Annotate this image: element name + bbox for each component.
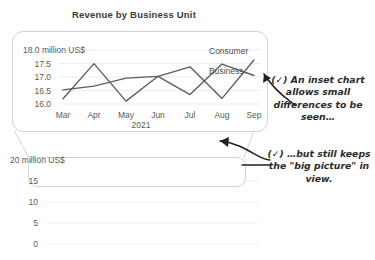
overview-ytick-3: 5 <box>6 218 38 228</box>
series-label-business: Business <box>209 66 244 76</box>
annotation-note-overview: (✓) …but still keeps the "big picture" i… <box>264 148 374 185</box>
inset-ytick-2: 17.0 <box>19 72 51 82</box>
inset-xtick-may: May <box>112 110 140 120</box>
overview-ytick-1: 15 <box>6 176 38 186</box>
series-label-consumer: Consumer <box>209 46 248 56</box>
overview-ytick-4: 0 <box>6 239 38 249</box>
inset-ytick-4: 16.0 <box>19 99 51 109</box>
page-title: Revenue by Business Unit <box>0 9 268 20</box>
inset-ytick-0: 18.0 million US$ <box>23 45 85 55</box>
overview-ytick-0: 20 million US$ <box>10 155 65 165</box>
inset-xtick-jun: Jun <box>144 110 172 120</box>
inset-xtick-apr: Apr <box>80 110 108 120</box>
inset-xtick-aug: Aug <box>208 110 236 120</box>
inset-ytick-3: 16.5 <box>19 86 51 96</box>
overview-ytick-2: 10 <box>6 197 38 207</box>
inset-chart-card[interactable]: 18.0 million US$ 17.5 17.0 16.5 16.0 Mar… <box>12 31 268 132</box>
slide-canvas: · · · · · · · · · · Revenue by Business … <box>0 0 375 260</box>
inset-xtick-jul: Jul <box>176 110 204 120</box>
inset-xtick-mar: Mar <box>49 110 77 120</box>
inset-ytick-1: 17.5 <box>19 59 51 69</box>
annotation-note-inset: (✓) An inset chart allows small differen… <box>262 74 374 124</box>
cut-off-text-row: · · · · · · · · · · <box>0 0 375 2</box>
